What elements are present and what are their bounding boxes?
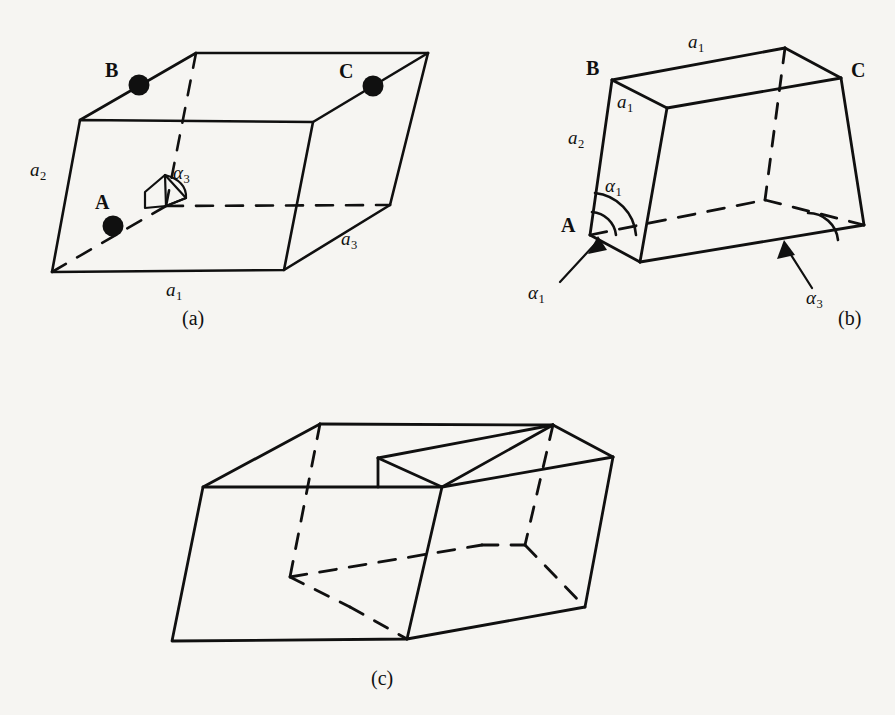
panel-a-vector-a3-sub: 3 bbox=[351, 238, 358, 252]
panel-b-angle-alpha3-callout-sub: 3 bbox=[816, 297, 823, 311]
panel-a-point-B-dot bbox=[129, 75, 150, 96]
panel-b-top-back-right-edge bbox=[785, 48, 841, 78]
panel-b-hidden-back-vertical bbox=[765, 48, 785, 200]
panel-b-point-C-label: C bbox=[851, 60, 865, 80]
panel-b-front-face-right-edge bbox=[841, 78, 864, 225]
panel-b-alpha1-callout-leader bbox=[560, 243, 596, 282]
panel-a-point-C-dot bbox=[363, 76, 384, 97]
panel-b-angle-alpha1-arc-sub: 1 bbox=[615, 185, 622, 199]
panel-b-angle-alpha1-callout-base: α bbox=[528, 282, 538, 303]
panel-b-angle-alpha1-callout-label: α1 bbox=[528, 283, 545, 305]
panel-c-hidden-back-right bbox=[525, 545, 585, 607]
panel-c-right-vertical-edge bbox=[585, 457, 613, 607]
panel-b-angle-alpha1-arc-label: α1 bbox=[605, 176, 622, 198]
panel-b-top-inner-front-edge bbox=[667, 78, 841, 108]
panel-b-vector-a2-base: a bbox=[568, 127, 578, 148]
panel-a-vector-a2-base: a bbox=[30, 159, 40, 180]
panel-b-angle-alpha1-arc-base: α bbox=[605, 175, 615, 196]
panel-a-hidden-back-left bbox=[52, 206, 166, 272]
panel-a-vector-a2-sub: 2 bbox=[40, 169, 47, 183]
panel-b-vector-a2-sub: 2 bbox=[578, 137, 585, 151]
panel-b-vector-a1-top-sub: 1 bbox=[698, 41, 705, 55]
panel-c-right-top-back-edge bbox=[553, 425, 613, 457]
panel-b-angle-alpha3-callout-base: α bbox=[806, 287, 816, 308]
panel-b-vector-a1-face-base: a bbox=[617, 91, 627, 112]
panel-c-geometry bbox=[172, 424, 613, 641]
panel-c-right-bottom-edge bbox=[407, 607, 585, 639]
panel-a-point-B-label: B bbox=[105, 60, 118, 80]
panel-b-caption: (b) bbox=[838, 308, 861, 328]
figure-root: B C A a2 a1 a3 α3 (a) B C A a1 a1 a2 α1 … bbox=[0, 0, 895, 715]
panel-b-vector-a1-top-label: a1 bbox=[688, 32, 704, 54]
panel-a-alpha3-wedge-spoke-a bbox=[165, 175, 166, 206]
panel-c-left-top-left-edge bbox=[203, 424, 320, 487]
panel-b-left-face-inner-edge bbox=[640, 108, 667, 262]
panel-b-front-face-bottom-edge bbox=[640, 225, 864, 262]
panel-a-angle-alpha3-sub: 3 bbox=[183, 172, 190, 186]
panel-a-point-A-label: A bbox=[95, 192, 109, 212]
panel-a-point-A-dot bbox=[103, 216, 124, 237]
panel-a-vector-a3-label: a3 bbox=[341, 229, 357, 251]
panel-c-hidden-mid-bottom bbox=[290, 577, 350, 607]
panel-b-geometry bbox=[590, 48, 864, 262]
panel-b-alpha1-arrowhead bbox=[588, 236, 607, 254]
panel-b-vector-a1-face-label: a1 bbox=[617, 92, 633, 114]
panel-c-hidden-mid-right bbox=[290, 545, 482, 577]
panel-c-hidden-apex-vertical bbox=[525, 425, 553, 545]
panel-b-callout-arrowheads bbox=[588, 236, 795, 259]
panel-a-angle-alpha3-base: α bbox=[173, 162, 183, 183]
panel-c-hidden-mid-vertical bbox=[290, 424, 320, 577]
panel-b-vector-a2-label: a2 bbox=[568, 128, 584, 150]
panel-b-hidden-back-bottom bbox=[590, 200, 765, 235]
figure-drawing bbox=[0, 0, 895, 715]
panel-a-lattice-points bbox=[103, 75, 384, 237]
panel-b-angle-alpha3-callout-label: α3 bbox=[806, 288, 823, 310]
panel-b-point-B-label: B bbox=[586, 58, 599, 78]
panel-a-vector-a3-base: a bbox=[341, 228, 351, 249]
panel-a-point-C-label: C bbox=[339, 61, 353, 81]
panel-a-vector-a2-label: a2 bbox=[30, 160, 46, 182]
panel-a-angle-alpha3-label: α3 bbox=[173, 163, 190, 185]
panel-a-hidden-back-right bbox=[166, 205, 390, 206]
panel-a-vector-a1-label: a1 bbox=[166, 280, 182, 302]
panel-c-notch-diagonal bbox=[378, 458, 442, 487]
panel-b-point-A-label: A bbox=[561, 215, 575, 235]
panel-c-caption: (c) bbox=[371, 668, 393, 688]
panel-a-right-vertical-edge bbox=[390, 53, 428, 205]
panel-a-vector-a1-sub: 1 bbox=[176, 289, 183, 303]
panel-c-notch-top-edge bbox=[378, 425, 553, 458]
panel-a-caption: (a) bbox=[182, 308, 204, 328]
panel-b-vector-a1-top-base: a bbox=[688, 31, 698, 52]
panel-b-angle-alpha1-callout-sub: 1 bbox=[538, 292, 545, 306]
panel-a-vector-a1-base: a bbox=[166, 279, 176, 300]
panel-c-left-front-face bbox=[172, 487, 442, 641]
panel-a-right-bottom-edge bbox=[284, 205, 390, 270]
panel-b-alpha1-arc bbox=[592, 193, 636, 235]
panel-c-hidden-notch-floor bbox=[350, 607, 407, 639]
panel-b-vector-a1-face-sub: 1 bbox=[627, 101, 634, 115]
panel-c-left-top-back-edge bbox=[320, 424, 553, 425]
